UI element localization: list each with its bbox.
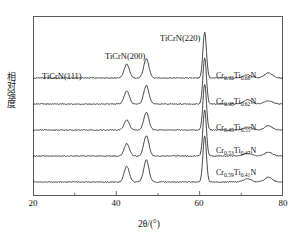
curve-label-2: Cr0.45Ti0.55N <box>216 123 256 132</box>
xrd-traces <box>33 32 283 182</box>
curve-label-0: Cr0.32Ti0.68N <box>216 71 256 80</box>
x-tick-label-60: 60 <box>187 198 211 208</box>
xrd-figure: 相对强度 TiCrN(111) TiCrN(200) TiCrN(220) Cr… <box>0 0 298 244</box>
x-tick-label-40: 40 <box>104 198 128 208</box>
x-tick-label-80: 80 <box>271 198 295 208</box>
curve-label-4: Cr0.59Ti0.41N <box>216 168 256 177</box>
curve-label-3: Cr0.53Ti0.47N <box>216 146 256 155</box>
y-axis-title: 相对强度 <box>2 72 16 108</box>
x-axis-ticks <box>75 191 242 196</box>
peak-label-200: TiCrN(200) <box>105 51 145 61</box>
peak-label-111: TiCrN(111) <box>42 71 82 81</box>
peak-label-220: TiCrN(220) <box>160 33 200 43</box>
x-tick-label-20: 20 <box>21 198 45 208</box>
x-axis-title: 2θ/(°) <box>0 219 298 229</box>
curve-label-1: Cr0.38Ti0.62N <box>216 97 256 106</box>
